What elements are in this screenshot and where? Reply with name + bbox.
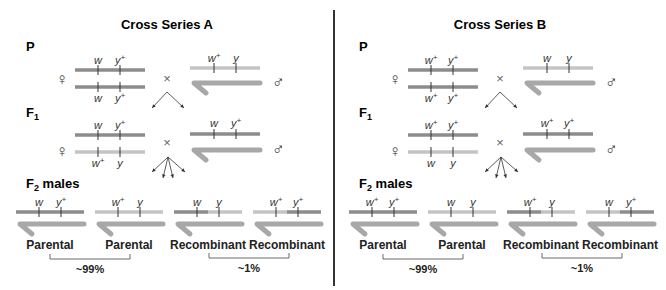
allele-label: w	[447, 196, 456, 208]
female-symbol: ♀	[389, 142, 402, 161]
panel-title: Cross Series A	[121, 17, 214, 32]
arrow-head-icon	[503, 174, 506, 178]
allele-label: y	[469, 196, 477, 208]
allele-label: w+	[425, 53, 438, 66]
f2-y-chromosome	[99, 224, 163, 234]
allele-label: y	[136, 196, 144, 208]
male-symbol: ♂	[605, 140, 618, 159]
p-male-y-chromosome	[194, 83, 260, 93]
generation-label-f2-males: F2 males	[26, 176, 79, 193]
f2-male-genotype: wyRecombinant	[170, 196, 246, 252]
cross-diagram: Cross Series BPF1F2 males♀w+y+w+y+×wy♂♀w…	[333, 0, 666, 290]
cross-symbol: ×	[496, 71, 504, 86]
f2-y-chromosome	[353, 224, 417, 234]
parental-bracket	[383, 254, 463, 259]
offspring-class-label: Recombinant	[249, 238, 325, 252]
arrow-head-icon	[170, 174, 173, 178]
allele-label: y+	[55, 195, 67, 208]
p-male-y-chromosome	[527, 83, 593, 93]
allele-label: y	[116, 157, 124, 169]
allele-label: w+	[425, 118, 438, 131]
allele-label: y	[215, 196, 223, 208]
f2-male-genotype: w+yParental	[95, 195, 163, 252]
offspring-class-label: Parental	[438, 238, 485, 252]
allele-label: y+	[563, 116, 575, 129]
f2-male-genotype: wy+Parental	[16, 195, 84, 252]
allele-label: w+	[208, 51, 221, 64]
f2-y-chromosome	[178, 224, 242, 234]
allele-label: w	[35, 196, 44, 208]
recombinant-bracket	[542, 253, 622, 258]
generation-label-f1: F1	[26, 105, 39, 122]
allele-label: w+	[270, 195, 283, 208]
cross-series-b-panel: Cross Series BPF1F2 males♀w+y+w+y+×wy♂♀w…	[333, 0, 666, 290]
allele-label: w	[193, 196, 202, 208]
cross-symbol: ×	[163, 71, 171, 86]
recombinant-bracket	[209, 253, 289, 258]
allele-label: w+	[524, 195, 537, 208]
allele-label: w+	[366, 195, 379, 208]
f2-male-genotype: wyParental	[428, 196, 496, 252]
offspring-class-label: Parental	[26, 238, 73, 252]
allele-label: y+	[447, 91, 459, 104]
allele-label: y+	[625, 195, 637, 208]
allele-label: w	[210, 117, 219, 129]
generation-label-p: P	[359, 39, 368, 54]
f2-male-genotype: w+y+Recombinant	[249, 195, 325, 252]
allele-label: w	[543, 52, 552, 64]
offspring-class-label: Parental	[105, 238, 152, 252]
male-symbol: ♂	[272, 73, 285, 92]
allele-label: w+	[541, 116, 554, 129]
allele-label: w	[94, 92, 103, 104]
cross-symbol: ×	[163, 135, 171, 150]
cross-series-a-panel: Cross Series APF1F2 males♀wy+wy+×w+y♂♀wy…	[0, 0, 333, 290]
allele-label: y+	[114, 118, 126, 131]
female-symbol: ♀	[56, 70, 69, 89]
female-symbol: ♀	[389, 70, 402, 89]
allele-label: y+	[230, 116, 242, 129]
f2-male-genotype: w+y+Parental	[349, 195, 417, 252]
allele-label: y+	[114, 53, 126, 66]
cross-diagram: Cross Series APF1F2 males♀wy+wy+×w+y♂♀wy…	[0, 0, 333, 290]
cross-symbol: ×	[496, 135, 504, 150]
f1-male-y-chromosome	[527, 150, 593, 160]
male-symbol: ♂	[605, 73, 618, 92]
parental-percentage: ~99%	[76, 263, 105, 275]
allele-label: w+	[425, 91, 438, 104]
f2-male-genotype: w+yRecombinant	[503, 195, 579, 252]
offspring-class-label: Parental	[359, 238, 406, 252]
allele-label: w	[427, 157, 436, 169]
offspring-class-label: Recombinant	[582, 238, 658, 252]
allele-label: y	[565, 52, 573, 64]
allele-label: w+	[92, 156, 105, 169]
allele-label: w	[94, 119, 103, 131]
allele-label: y	[449, 157, 457, 169]
parental-bracket	[50, 254, 130, 259]
allele-label: y+	[447, 53, 459, 66]
allele-label: y	[548, 196, 556, 208]
parental-percentage: ~99%	[409, 263, 438, 275]
allele-label: y+	[114, 91, 126, 104]
arrow-head-icon	[162, 174, 165, 178]
allele-label: w	[94, 54, 103, 66]
arrow-head-icon	[495, 174, 498, 178]
f2-male-genotype: wy+Recombinant	[582, 195, 658, 252]
f2-y-chromosome	[511, 224, 575, 234]
f1-male-y-chromosome	[194, 150, 260, 160]
allele-label: y	[232, 52, 240, 64]
recombinant-percentage: ~1%	[571, 262, 594, 274]
allele-label: w	[605, 196, 614, 208]
panel-title: Cross Series B	[454, 17, 547, 32]
allele-label: y+	[292, 195, 304, 208]
male-symbol: ♂	[272, 140, 285, 159]
f2-y-chromosome	[257, 224, 321, 234]
generation-label-f1: F1	[359, 105, 372, 122]
allele-label: w+	[112, 195, 125, 208]
offspring-class-label: Recombinant	[503, 238, 579, 252]
f2-y-chromosome	[590, 224, 654, 234]
generation-label-f2-males: F2 males	[359, 176, 412, 193]
allele-label: y+	[447, 118, 459, 131]
offspring-class-label: Recombinant	[170, 238, 246, 252]
recombinant-percentage: ~1%	[238, 262, 261, 274]
female-symbol: ♀	[56, 142, 69, 161]
